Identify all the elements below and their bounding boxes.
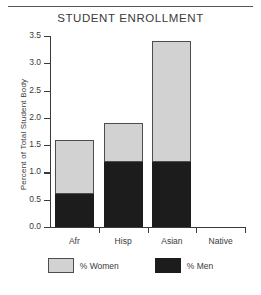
header-rule [8, 6, 253, 7]
y-axis-tick-label: 1.0 [29, 166, 41, 176]
bar-segment-men [104, 162, 143, 227]
y-axis-tick-label: 2.5 [29, 85, 41, 95]
bar-segment-women [152, 41, 191, 161]
y-axis-tick: 0.0 [44, 227, 50, 228]
legend-label-women: % Women [80, 261, 119, 271]
bar-segment-men [152, 162, 191, 227]
x-axis-tick [245, 227, 246, 233]
plot-area [50, 36, 245, 227]
y-axis-tick-label: 2.0 [29, 112, 41, 122]
x-axis-tick [99, 227, 100, 233]
legend-item-men: % Men [155, 258, 213, 273]
y-axis-tick-label: 1.5 [29, 139, 41, 149]
chart-legend: % Women % Men [0, 258, 261, 273]
legend-label-men: % Men [187, 261, 213, 271]
legend-item-women: % Women [48, 258, 119, 273]
x-axis-tick [196, 227, 197, 233]
y-axis-tick-label: 0.5 [29, 194, 41, 204]
bar-stack [152, 41, 191, 227]
y-axis-tick-label: 3.0 [29, 57, 41, 67]
chart-figure: STUDENT ENROLLMENT Percent of Total Stud… [0, 0, 261, 295]
y-axis-tick-label: 3.5 [29, 30, 41, 40]
y-axis-label: Percent of Total Student Body [19, 55, 28, 215]
y-axis-tick-label: 0.0 [29, 221, 41, 231]
bar-segment-women [104, 123, 143, 161]
bar-stack [55, 140, 94, 227]
legend-swatch-women [48, 258, 74, 273]
bar-segment-women [55, 140, 94, 195]
legend-swatch-men [155, 258, 181, 273]
x-axis-tick [148, 227, 149, 233]
bar-stack [104, 123, 143, 227]
x-axis-tick-label: Native [191, 236, 251, 246]
bar-segment-men [55, 194, 94, 227]
chart-title: STUDENT ENROLLMENT [0, 12, 261, 24]
